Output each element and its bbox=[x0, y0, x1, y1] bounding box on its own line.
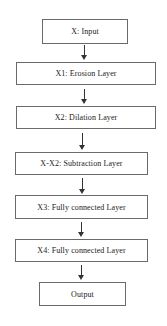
arrow-dilation-to-subtraction-icon bbox=[78, 133, 87, 151]
node-fc1-label: X3: Fully connected Layer bbox=[37, 203, 125, 212]
node-fully-connected-1: X3: Fully connected Layer bbox=[15, 195, 148, 219]
node-dilation-layer: X2: Dilation Layer bbox=[16, 106, 156, 129]
node-subtraction-label: X-X2: Subtraction Layer bbox=[40, 159, 122, 168]
node-input: X: Input bbox=[42, 19, 128, 44]
node-erosion-label: X1: Erosion Layer bbox=[55, 69, 116, 78]
arrow-subtraction-to-fc1-icon bbox=[78, 178, 87, 195]
node-dilation-label: X2: Dilation Layer bbox=[55, 113, 118, 122]
node-input-label: X: Input bbox=[71, 27, 99, 36]
node-output: Output bbox=[39, 282, 126, 306]
node-subtraction-layer: X-X2: Subtraction Layer bbox=[15, 152, 148, 175]
node-fully-connected-2: X4: Fully connected Layer bbox=[15, 239, 148, 262]
arrow-fc1-to-fc2-icon bbox=[77, 222, 86, 238]
node-erosion-layer: X1: Erosion Layer bbox=[16, 62, 156, 85]
arrow-input-to-erosion-icon bbox=[80, 45, 89, 61]
node-fc2-label: X4: Fully connected Layer bbox=[37, 246, 125, 255]
node-output-label: Output bbox=[71, 290, 94, 299]
arrow-fc2-to-output-icon bbox=[77, 265, 86, 281]
arrow-erosion-to-dilation-icon bbox=[80, 89, 89, 105]
